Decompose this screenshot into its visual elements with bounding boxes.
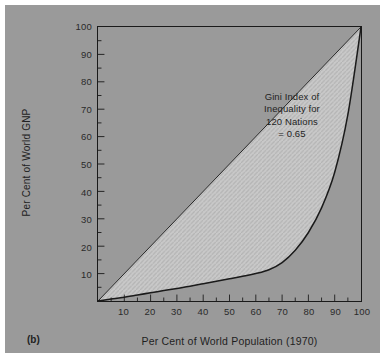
y-tick-label: 50 [81,159,92,170]
y-tick-label: 70 [81,103,92,114]
x-tick-label: 30 [171,306,182,317]
x-axis-tick-labels: 102030405060708090100 [97,306,362,320]
x-tick-label: 90 [330,306,341,317]
panel-letter: (b) [27,334,40,345]
x-tick-label: 70 [277,306,288,317]
x-tick-label: 60 [251,306,262,317]
lorenz-curve-plot [98,27,361,301]
y-tick-label: 60 [81,131,92,142]
gini-annotation-line-2: Inequality for [236,103,348,115]
gini-annotation-line-4: = 0.65 [236,128,348,140]
y-tick-label: 80 [81,76,92,87]
gini-annotation-line-3: 120 Nations [236,116,348,128]
plot-area: Gini Index of Inequality for 120 Nations… [97,26,362,302]
y-axis-tick-labels: 102030405060708090100 [63,26,92,302]
x-tick-label: 80 [304,306,315,317]
y-axis-title: Per Cent of World GNP [21,73,32,253]
y-tick-label: 40 [81,186,92,197]
x-tick-label: 50 [224,306,235,317]
x-tick-label: 10 [118,306,129,317]
y-tick-label: 20 [81,241,92,252]
y-tick-label: 30 [81,214,92,225]
gini-annotation-line-1: Gini Index of [236,91,348,103]
x-tick-label: 40 [198,306,209,317]
y-tick-label: 90 [81,48,92,59]
x-tick-label: 20 [145,306,156,317]
x-axis-title: Per Cent of World Population (1970) [97,335,362,347]
y-tick-label: 10 [81,269,92,280]
gini-index-annotation: Gini Index of Inequality for 120 Nations… [236,91,348,141]
figure-plate: Per Cent of World GNP 102030405060708090… [5,5,380,353]
y-tick-label: 100 [76,21,92,32]
x-tick-label: 100 [354,306,370,317]
figure-panel: Per Cent of World GNP 102030405060708090… [0,0,385,358]
